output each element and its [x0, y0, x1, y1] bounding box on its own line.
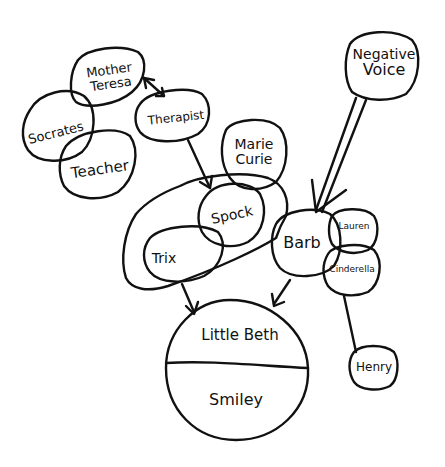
- node-little-beth: Little Beth: [201, 328, 278, 344]
- node-label-line2: Voice: [353, 62, 416, 79]
- node-label-line1: Marie: [235, 137, 274, 152]
- edge-negative-voice-barb: [316, 98, 356, 210]
- node-barb: Barb: [283, 235, 321, 252]
- node-label-line2: Curie: [235, 152, 274, 167]
- group-enclosure-outline: [123, 174, 287, 289]
- node-lauren: Lauren: [339, 222, 370, 231]
- divider-line: [166, 362, 308, 368]
- node-mother-teresa: Mother Teresa: [85, 60, 134, 93]
- edge-barb-little-beth: [274, 280, 290, 304]
- edge-cinderella-henry: [344, 296, 356, 352]
- edge-negative-voice-barb-2: [322, 100, 366, 212]
- node-henry: Henry: [356, 361, 392, 374]
- node-marie-curie: Marie Curie: [235, 137, 274, 166]
- node-negative-voice: Negative Voice: [353, 47, 416, 78]
- node-little-beth-smiley-outline: [166, 300, 308, 440]
- node-trix: Trix: [152, 251, 176, 266]
- node-smiley: Smiley: [209, 392, 263, 409]
- mind-map-diagram: Mother Teresa Socrates Teacher Therapist…: [0, 0, 445, 467]
- node-cinderella: Cinderella: [329, 265, 374, 274]
